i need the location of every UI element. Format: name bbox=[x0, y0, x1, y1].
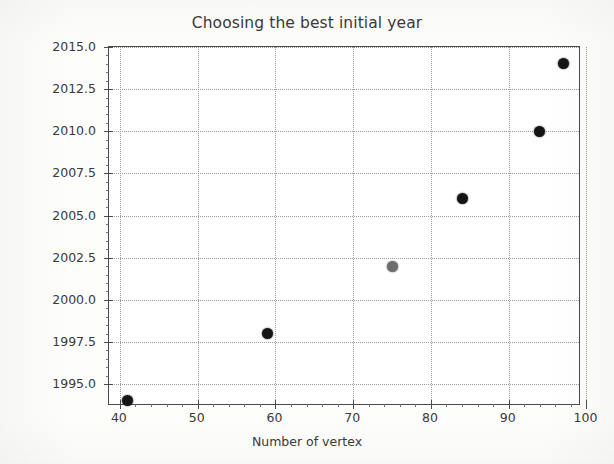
y-minor-tick bbox=[106, 199, 109, 200]
y-minor-tick bbox=[106, 325, 109, 326]
x-minor-tick bbox=[384, 404, 385, 407]
x-minor-tick bbox=[167, 404, 168, 407]
x-minor-tick bbox=[415, 404, 416, 407]
x-minor-tick bbox=[322, 404, 323, 407]
y-minor-tick bbox=[106, 232, 109, 233]
x-minor-tick bbox=[244, 404, 245, 407]
x-tick-mark bbox=[353, 404, 354, 409]
x-tick-mark-inner bbox=[353, 400, 354, 404]
x-tick-mark bbox=[120, 404, 121, 409]
gridline-vertical bbox=[353, 47, 354, 404]
y-minor-tick bbox=[106, 182, 109, 183]
x-minor-tick bbox=[493, 404, 494, 407]
scatter-point bbox=[262, 328, 273, 339]
y-tick-mark-inner bbox=[109, 173, 113, 174]
y-minor-tick bbox=[106, 55, 109, 56]
y-minor-tick bbox=[106, 165, 109, 166]
x-tick-label: 60 bbox=[266, 410, 282, 425]
y-tick-mark-inner bbox=[109, 131, 113, 132]
y-tick-mark-inner bbox=[109, 258, 113, 259]
chart-title: Choosing the best initial year bbox=[0, 14, 614, 32]
y-minor-tick bbox=[106, 81, 109, 82]
x-tick-mark bbox=[275, 404, 276, 409]
x-minor-tick bbox=[151, 404, 152, 407]
y-minor-tick bbox=[106, 317, 109, 318]
x-minor-tick bbox=[524, 404, 525, 407]
gridline-vertical bbox=[120, 47, 121, 404]
x-minor-tick bbox=[229, 404, 230, 407]
x-minor-tick bbox=[446, 404, 447, 407]
x-minor-tick bbox=[291, 404, 292, 407]
x-tick-label: 40 bbox=[111, 410, 127, 425]
y-tick-mark-inner bbox=[109, 216, 113, 217]
y-minor-tick bbox=[106, 291, 109, 292]
gridline-vertical bbox=[586, 47, 587, 404]
scatter-point bbox=[558, 58, 569, 69]
y-minor-tick bbox=[106, 98, 109, 99]
x-tick-mark-inner bbox=[198, 400, 199, 404]
y-minor-tick bbox=[106, 241, 109, 242]
y-minor-tick bbox=[106, 123, 109, 124]
x-tick-mark bbox=[586, 404, 587, 409]
y-tick-label: 2012.5 bbox=[52, 81, 96, 96]
y-minor-tick bbox=[106, 283, 109, 284]
x-tick-mark bbox=[431, 404, 432, 409]
y-tick-mark-inner bbox=[109, 89, 113, 90]
y-minor-tick bbox=[106, 106, 109, 107]
gridline-vertical bbox=[431, 47, 432, 404]
x-tick-label: 80 bbox=[422, 410, 438, 425]
x-minor-tick bbox=[213, 404, 214, 407]
x-tick-mark-inner bbox=[586, 400, 587, 404]
y-minor-tick bbox=[106, 350, 109, 351]
y-minor-tick bbox=[106, 157, 109, 158]
x-tick-mark-inner bbox=[431, 400, 432, 404]
x-tick-label: 70 bbox=[344, 410, 360, 425]
x-axis-label: Number of vertex bbox=[0, 434, 614, 449]
x-tick-mark bbox=[509, 404, 510, 409]
y-tick-label: 1997.5 bbox=[52, 333, 96, 348]
y-minor-tick bbox=[106, 367, 109, 368]
scatter-point bbox=[534, 126, 545, 137]
scatter-point bbox=[457, 193, 468, 204]
y-minor-tick bbox=[106, 114, 109, 115]
y-tick-label: 2005.0 bbox=[52, 207, 96, 222]
y-tick-label: 2002.5 bbox=[52, 249, 96, 264]
x-minor-tick bbox=[369, 404, 370, 407]
x-minor-tick bbox=[571, 404, 572, 407]
y-tick-label: 1995.0 bbox=[52, 376, 96, 391]
y-tick-label: 2015.0 bbox=[52, 39, 96, 54]
y-minor-tick bbox=[106, 148, 109, 149]
y-minor-tick bbox=[106, 224, 109, 225]
y-tick-mark-inner bbox=[109, 342, 113, 343]
y-minor-tick bbox=[106, 334, 109, 335]
x-tick-label: 50 bbox=[189, 410, 205, 425]
x-minor-tick bbox=[135, 404, 136, 407]
y-minor-tick bbox=[106, 190, 109, 191]
y-tick-label: 2000.0 bbox=[52, 291, 96, 306]
gridline-vertical bbox=[509, 47, 510, 404]
y-tick-mark-inner bbox=[109, 384, 113, 385]
y-tick-label: 2010.0 bbox=[52, 123, 96, 138]
gridline-vertical bbox=[275, 47, 276, 404]
y-minor-tick bbox=[106, 207, 109, 208]
x-minor-tick bbox=[182, 404, 183, 407]
x-minor-tick bbox=[462, 404, 463, 407]
x-minor-tick bbox=[540, 404, 541, 407]
x-minor-tick bbox=[307, 404, 308, 407]
chart-figure: Choosing the best initial year Initial Y… bbox=[0, 0, 614, 464]
y-minor-tick bbox=[106, 359, 109, 360]
y-minor-tick bbox=[106, 308, 109, 309]
x-tick-label: 100 bbox=[574, 410, 598, 425]
y-minor-tick bbox=[106, 140, 109, 141]
x-tick-mark-inner bbox=[275, 400, 276, 404]
x-tick-mark-inner bbox=[509, 400, 510, 404]
y-tick-mark-inner bbox=[109, 300, 113, 301]
x-minor-tick bbox=[338, 404, 339, 407]
x-minor-tick bbox=[555, 404, 556, 407]
x-minor-tick bbox=[478, 404, 479, 407]
y-minor-tick bbox=[106, 64, 109, 65]
x-tick-mark-inner bbox=[120, 400, 121, 404]
gridline-vertical bbox=[198, 47, 199, 404]
x-tick-mark bbox=[198, 404, 199, 409]
y-minor-tick bbox=[106, 376, 109, 377]
